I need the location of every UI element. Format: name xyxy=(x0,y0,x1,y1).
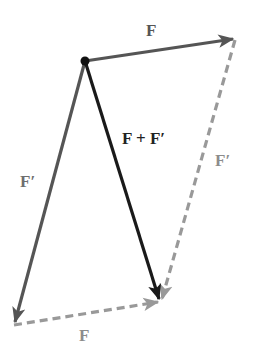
vector-f-dashed xyxy=(14,302,158,325)
vector-f-prime xyxy=(15,61,85,322)
label-f-bottom: F xyxy=(79,327,89,344)
label-f-top: F xyxy=(146,22,156,39)
label-f-prime-left: F′ xyxy=(20,173,35,190)
origin-point xyxy=(81,57,90,66)
label-resultant: F + F′ xyxy=(122,130,165,147)
label-f-prime-right: F′ xyxy=(215,152,230,169)
vector-f xyxy=(85,39,233,61)
vector-addition-diagram xyxy=(0,0,254,355)
vector-resultant xyxy=(85,61,159,299)
